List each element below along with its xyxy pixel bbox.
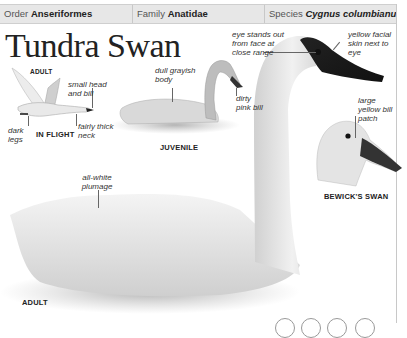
label-fairly-thick-neck: fairly thick neck [78,122,118,140]
in-flight-caption: IN FLIGHT [36,130,74,139]
circle-icon [327,318,347,338]
leader-line [355,116,356,138]
bewicks-swan-icon [317,121,402,186]
label-large-yellow-bill-patch: large yellow bill patch [358,96,398,123]
juvenile-caption: JUVENILE [160,143,198,152]
circle-icon [355,318,375,338]
circle-icon [301,318,321,338]
bewicks-caption: BEWICK'S SWAN [324,192,388,201]
label-dirty-pink-bill: dirty pink bill [236,94,266,112]
label-dark-legs: dark legs [8,126,30,144]
adult-caption: ADULT [22,298,48,307]
in-flight-sub-caption: ADULT [30,68,53,75]
label-all-white-plumage: all-white plumage [72,173,122,191]
leader-line [76,114,77,126]
circle-icon [275,318,295,338]
label-small-head-and-bill: small head and bill [68,80,118,98]
label-yellow-facial-skin: yellow facial skin next to eye [348,30,394,57]
label-eye-stands-out: eye stands out from face at close range [232,30,294,57]
leader-line [98,190,99,208]
label-dull-grayish-body: dull grayish body [155,66,203,84]
leader-line [28,116,29,126]
leader-line [172,88,173,102]
